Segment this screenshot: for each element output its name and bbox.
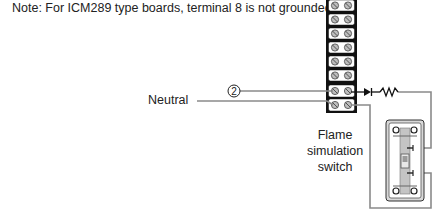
svg-text:2: 2 — [231, 86, 237, 97]
flame-switch-label-line2: simulation — [307, 143, 363, 159]
wiring-diagram: 2 — [0, 0, 436, 215]
flame-switch-label: Flame simulation switch — [307, 127, 363, 175]
flame-switch-label-line3: switch — [307, 159, 363, 175]
flame-simulation-switch[interactable] — [386, 120, 424, 201]
resistor-symbol — [380, 88, 398, 96]
neutral-label: Neutral — [148, 93, 188, 107]
flame-switch-label-line1: Flame — [307, 127, 363, 143]
terminal-2-callout: 2 — [228, 85, 240, 97]
terminal-strip — [326, 0, 357, 113]
